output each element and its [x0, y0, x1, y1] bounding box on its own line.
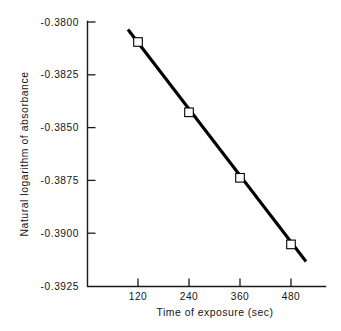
y-tick-label-0: -0.3800 [41, 17, 79, 28]
x-tick-marks [138, 279, 291, 287]
chart-figure: -0.3800 -0.3825 -0.3850 -0.3875 -0.3900 … [0, 0, 341, 331]
y-tick-label-3: -0.3875 [41, 175, 79, 186]
y-axis-title: Natural logarithm of absorbance [19, 72, 30, 237]
y-tick-marks [88, 22, 96, 233]
data-point-marker [287, 240, 296, 249]
data-point-marker [134, 38, 143, 47]
trend-line [128, 30, 306, 262]
y-tick-label-5: -0.3925 [41, 281, 79, 292]
x-tick-label-0: 120 [129, 291, 148, 302]
y-tick-label-4: -0.3900 [41, 228, 79, 239]
x-tick-label-1: 240 [180, 291, 199, 302]
data-point-marker [185, 108, 194, 117]
y-tick-label-1: -0.3825 [41, 69, 79, 80]
scatter-plot-svg: -0.3800 -0.3825 -0.3850 -0.3875 -0.3900 … [0, 0, 341, 331]
x-axis-title: Time of exposure (sec) [157, 307, 274, 318]
data-point-marker [236, 174, 245, 183]
x-tick-label-3: 480 [282, 291, 301, 302]
x-tick-label-2: 360 [231, 291, 250, 302]
y-tick-label-2: -0.3850 [41, 122, 79, 133]
